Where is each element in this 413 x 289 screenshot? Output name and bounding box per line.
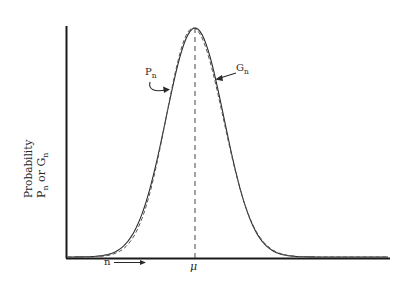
n-axis-label: n [104,256,110,267]
g-n-label: Gn [236,62,249,76]
p-n-label: Pn [145,66,157,80]
y-axis-label-line1: Probability [22,140,35,198]
arrowhead-icon [140,260,146,265]
mu-label: μ [190,260,197,273]
y-axis-label: Probability Pn or Gn [22,140,52,198]
y-axis-label-line2: Pn or Gn [35,140,52,198]
p-n-dashed-curve [68,28,388,257]
distribution-chart [0,0,413,289]
g-n-pointer-arrow [220,73,236,78]
arrowhead-icon [163,87,170,94]
g-n-solid-curve [68,28,388,257]
